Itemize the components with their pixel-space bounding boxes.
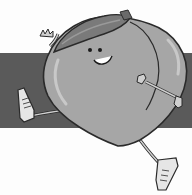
right-eye [98,48,102,52]
left-eye [88,48,92,52]
right-sneaker [156,158,178,190]
left-hand [40,29,53,37]
peach-character-drawing [0,0,192,195]
peach-illustration [0,0,192,195]
